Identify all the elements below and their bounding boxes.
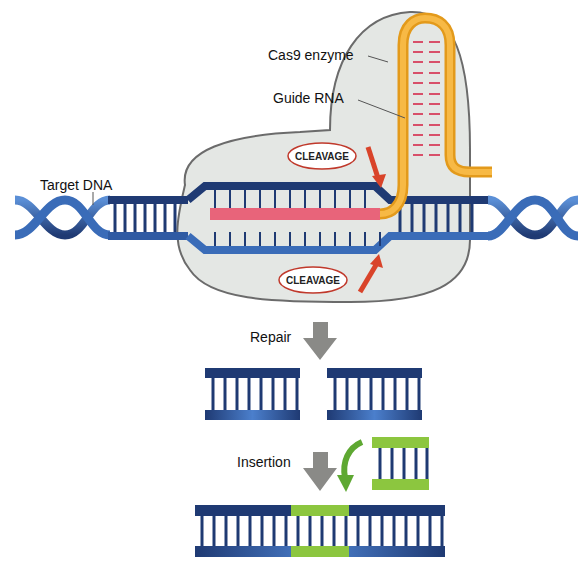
insert-dna-fragment [372,437,429,490]
label-cas9: Cas9 enzyme [268,47,354,63]
insert-curved-arrow-icon [344,442,362,478]
final-dna [195,505,445,557]
repaired-dna-left [205,368,300,420]
label-repair: Repair [250,329,292,345]
dna-ladder-left [108,196,188,240]
cleavage-badge-top: CLEAVAGE [288,143,356,169]
svg-text:CLEAVAGE: CLEAVAGE [286,275,340,286]
dna-helix-right [488,200,578,236]
repaired-dna-right [327,368,422,420]
dna-helix-left [15,200,110,235]
crispr-diagram: Cas9 enzyme Guide RNA Target DNA CLEAVAG… [0,0,588,566]
insertion-arrow-icon [303,452,337,491]
label-insertion: Insertion [237,454,291,470]
repair-arrow-icon [303,322,337,360]
label-target-dna: Target DNA [40,177,113,193]
label-guide-rna: Guide RNA [273,90,344,106]
svg-text:CLEAVAGE: CLEAVAGE [295,151,349,162]
rna-dna-hybrid [210,208,380,220]
cleavage-badge-bottom: CLEAVAGE [279,267,347,293]
